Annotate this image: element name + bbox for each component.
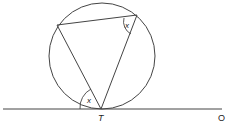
point-label-t: T — [98, 113, 105, 123]
point-label-o: O — [218, 113, 225, 123]
angle-label-tangent: x — [86, 96, 92, 105]
angle-label-top: x — [124, 21, 130, 30]
circle-theorem-diagram: x x T O — [0, 0, 230, 129]
